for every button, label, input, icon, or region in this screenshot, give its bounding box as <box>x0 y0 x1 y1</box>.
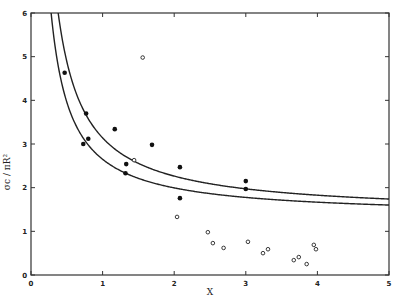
y-tick-label: 2 <box>22 184 27 192</box>
filled-data-point <box>86 136 91 141</box>
y-tick-label: 0 <box>22 272 27 280</box>
scatter-chart: 012345 0123456 X σc / πR² <box>0 0 398 300</box>
x-tick-label: 3 <box>243 280 248 288</box>
lower-curve <box>42 0 389 205</box>
open-data-point <box>312 243 316 247</box>
open-data-point <box>314 247 318 251</box>
x-tick-label: 2 <box>172 280 177 288</box>
open-data-point <box>222 246 226 250</box>
filled-data-point <box>244 179 249 184</box>
filled-data-point <box>150 143 155 148</box>
filled-data-point <box>123 171 128 176</box>
y-tick-label: 3 <box>22 141 27 149</box>
open-data-point <box>175 215 179 219</box>
y-axis-label: σc / πR² <box>2 153 12 190</box>
open-data-point <box>292 258 296 262</box>
x-tick-label: 1 <box>100 280 105 288</box>
x-tick-label: 0 <box>29 280 34 288</box>
open-data-point <box>141 56 145 60</box>
upper-curve <box>42 0 389 199</box>
x-axis-label: X <box>207 287 214 297</box>
open-data-point <box>266 247 270 251</box>
y-tick-label: 4 <box>22 97 27 105</box>
x-tick-label: 5 <box>387 280 392 288</box>
open-data-point <box>132 158 136 162</box>
open-data-point <box>305 262 309 266</box>
open-data-point <box>206 230 210 234</box>
y-tick-label: 1 <box>22 228 27 236</box>
y-tick-label: 6 <box>22 10 27 18</box>
filled-data-point <box>178 165 183 170</box>
x-axis-ticks: 012345 <box>29 13 392 288</box>
open-data-point <box>246 240 250 244</box>
open-data-point <box>261 251 265 255</box>
y-axis-ticks: 0123456 <box>22 10 389 280</box>
x-tick-label: 4 <box>315 280 320 288</box>
filled-data-point <box>178 196 183 201</box>
open-data-point <box>211 241 215 245</box>
filled-data-point <box>62 71 67 76</box>
filled-data-point <box>124 162 129 167</box>
fitted-curves <box>42 0 389 205</box>
filled-data-point <box>112 127 117 132</box>
y-tick-label: 5 <box>22 53 27 61</box>
filled-data-point <box>244 187 249 192</box>
open-data-point <box>297 255 301 259</box>
filled-data-point <box>84 111 89 116</box>
data-points <box>62 56 317 266</box>
filled-data-point <box>81 142 86 147</box>
